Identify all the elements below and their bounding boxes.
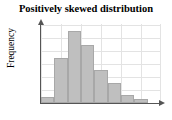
up-arrow-icon bbox=[38, 19, 44, 25]
bar bbox=[94, 70, 107, 103]
plot-area bbox=[41, 24, 161, 103]
bar bbox=[54, 58, 67, 103]
y-axis-line bbox=[40, 24, 41, 104]
x-axis-line bbox=[40, 103, 160, 104]
bar bbox=[121, 95, 134, 103]
bar bbox=[68, 31, 81, 103]
bar bbox=[81, 45, 94, 103]
bar-series bbox=[41, 24, 161, 103]
y-axis-label: Frequency bbox=[6, 16, 16, 80]
right-arrow-icon bbox=[159, 100, 165, 106]
chart-title: Positively skewed distribution bbox=[0, 3, 172, 14]
bar bbox=[108, 83, 121, 103]
chart-figure: Positively skewed distribution Frequency bbox=[0, 0, 172, 120]
